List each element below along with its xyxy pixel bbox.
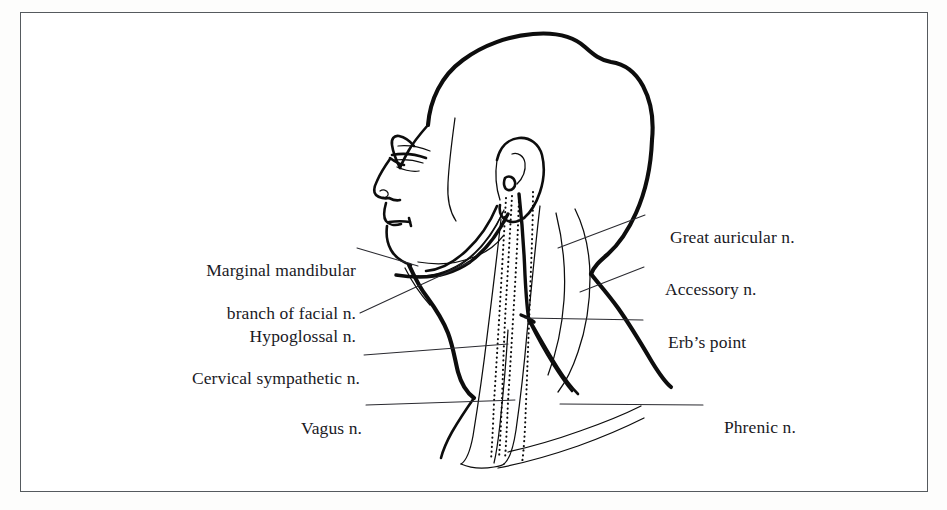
marginal-mandibular-nerve-path: [396, 214, 508, 277]
label-vagus-text: Vagus n.: [301, 418, 362, 438]
label-phrenic-nerve: Phrenic n.: [706, 395, 926, 460]
suprasternal-slope: [441, 398, 474, 458]
label-erbs-point: Erb’s point: [650, 310, 900, 375]
clavicle-lower-border: [498, 418, 644, 468]
leader-great-auricular: [558, 215, 645, 248]
occiput-outline: [591, 140, 652, 274]
trapezius-anterior-border: [558, 209, 590, 392]
skull-crown-outline: [428, 34, 653, 140]
scm-anterior-border: [461, 219, 501, 464]
label-accessory-text: Accessory n.: [665, 279, 757, 299]
cheek-temple-crease: [448, 118, 456, 221]
label-phrenic-text: Phrenic n.: [724, 417, 796, 437]
nose-base: [389, 198, 400, 200]
posterior-triangle-floor: [548, 213, 565, 375]
label-hypoglossal-text: Hypoglossal n.: [250, 326, 356, 346]
nostril: [380, 190, 388, 197]
leader-cervical-sympathetic: [364, 344, 508, 355]
leader-phrenic: [560, 404, 703, 405]
mouth-line: [389, 221, 410, 222]
ear-front-attachment: [496, 160, 500, 200]
eyebrow: [398, 146, 430, 151]
label-marginal-mandibular-line1: Marginal mandibular: [206, 260, 356, 280]
scm-clavicular-head: [461, 464, 504, 468]
leader-vagus: [366, 400, 515, 405]
eye-upper-lid: [392, 154, 426, 158]
mouth-corner-tick: [409, 218, 411, 226]
ear-tragus: [504, 177, 515, 191]
label-great-auricular-text: Great auricular n.: [670, 227, 795, 247]
lower-lip-chin: [387, 226, 411, 265]
scm-sternal-slip: [494, 330, 508, 463]
label-erbs-point-text: Erb’s point: [668, 332, 746, 352]
anterior-neck-contour: [409, 265, 474, 398]
great-auricular-nerve-path: [531, 322, 578, 394]
leader-hypoglossal: [360, 262, 470, 313]
label-vagus-nerve: Vagus n.: [180, 396, 362, 461]
leader-marginal-mandibular: [357, 248, 418, 266]
label-cervical-sympathetic-text: Cervical sympathetic n.: [192, 368, 360, 388]
figure-root: Marginal mandibular branch of facial n. …: [0, 0, 947, 510]
